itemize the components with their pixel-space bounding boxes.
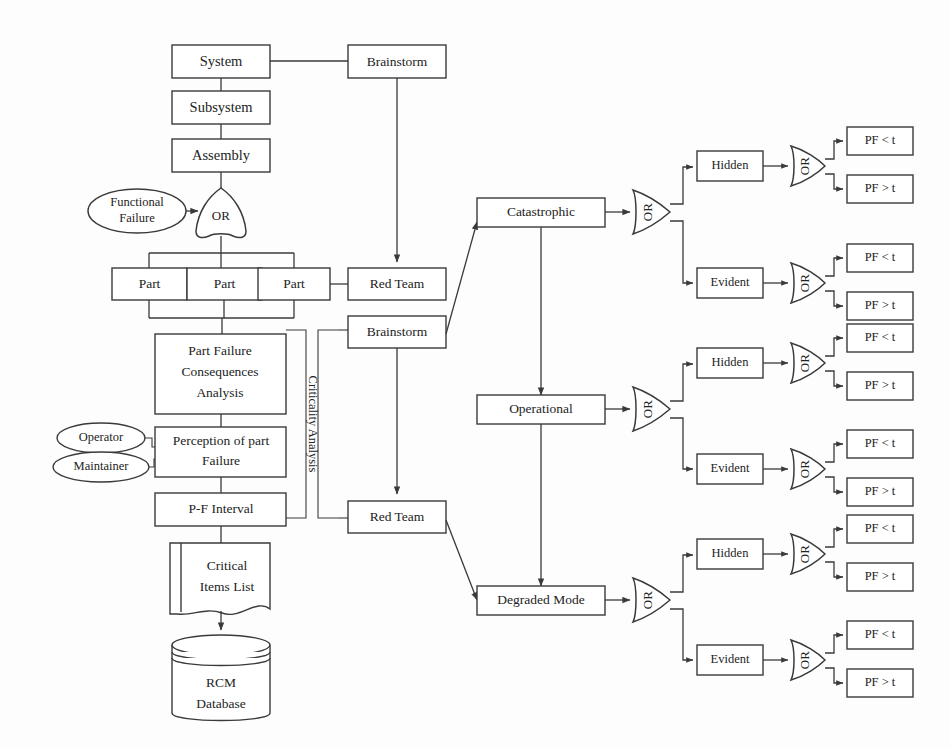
node-degraded-hidden-pf-lt[interactable]: PF < t [847,515,913,543]
node-part-3[interactable]: Part [258,268,330,300]
node-operational-evident[interactable]: Evident [697,454,763,484]
red-team-top-label: Red Team [370,276,425,291]
node-rcm-database[interactable]: RCM Database [172,635,270,721]
node-operator[interactable]: Operator [57,423,145,453]
rcm-flow-diagram: System Subsystem Assembly Functional Fai… [0,0,950,748]
node-operational[interactable]: Operational [477,395,605,424]
node-brainstorm-mid[interactable]: Brainstorm [348,316,446,348]
node-catastrophic-evident[interactable]: Evident [697,268,763,298]
operational-evident-pf-lt-label: PF < t [865,436,896,450]
or-gate-degraded[interactable]: OR [633,578,670,622]
or-gate-operational-hidden[interactable]: OR [791,343,825,383]
catastrophic-evident-pf-gt-label: PF > t [865,298,896,312]
or-gate-catastrophic[interactable]: OR [633,190,670,234]
node-part-failure-consequences-analysis[interactable]: Part Failure Consequences Analysis [155,334,286,414]
node-system-label: System [200,53,243,69]
connector-redteam-degraded [446,520,477,600]
node-part-2-label: Part [214,276,236,291]
connector-operational-split [670,364,693,469]
connector-degraded-evident-outcomes [825,635,843,683]
node-catastrophic-evident-pf-lt[interactable]: PF < t [847,244,913,272]
node-critical-items-list[interactable]: Critical Items List [170,543,270,614]
operational-hidden-pf-gt-label: PF > t [865,378,896,392]
functional-failure-label-line2: Failure [119,211,155,225]
node-degraded-mode[interactable]: Degraded Mode [477,586,605,615]
node-degraded-hidden-pf-gt[interactable]: PF > t [847,563,913,591]
or-gate-operational-evident[interactable]: OR [791,449,825,489]
node-degraded-evident-pf-lt[interactable]: PF < t [847,621,913,649]
node-functional-failure[interactable]: Functional Failure [88,189,186,233]
node-operational-evident-pf-lt[interactable]: PF < t [847,430,913,458]
catastrophic-hidden-pf-lt-label: PF < t [865,133,896,147]
or-gate-catastrophic-label: OR [640,203,655,222]
pfca-label-line2: Consequences [181,364,258,379]
degraded-hidden-pf-gt-label: PF > t [865,569,896,583]
node-maintainer[interactable]: Maintainer [53,452,149,482]
node-degraded-evident-pf-gt[interactable]: PF > t [847,669,913,697]
node-operational-hidden-pf-lt[interactable]: PF < t [847,324,913,352]
connector-brainstorm-catastrophic [446,222,477,334]
rcm-database-label-line1: RCM [206,675,236,690]
or-gate-operational-evident-label: OR [797,460,812,479]
or-gate-operational[interactable]: OR [633,387,670,431]
functional-failure-label-line1: Functional [110,195,164,209]
node-operator-label: Operator [79,430,124,444]
brainstorm-mid-label: Brainstorm [367,324,428,339]
or-gate-degraded-label: OR [640,591,655,610]
or-gate-functional[interactable]: OR [196,188,246,238]
node-subsystem[interactable]: Subsystem [172,91,270,124]
or-gate-degraded-evident-label: OR [797,651,812,670]
connector-catastrophic-hidden-outcomes [825,141,843,189]
or-gate-catastrophic-evident[interactable]: OR [791,263,825,303]
node-catastrophic-hidden-pf-lt[interactable]: PF < t [847,127,913,155]
degraded-evident-label: Evident [711,652,750,666]
node-part-2[interactable]: Part [187,268,262,300]
node-pf-interval[interactable]: P-F Interval [155,493,286,526]
operational-hidden-pf-lt-label: PF < t [865,330,896,344]
degraded-evident-pf-gt-label: PF > t [865,675,896,689]
node-catastrophic-hidden[interactable]: Hidden [697,151,763,181]
connector-operator-perception [145,438,155,447]
connector-degraded-split [670,555,693,660]
node-catastrophic-evident-pf-gt[interactable]: PF > t [847,292,913,320]
or-gate-operational-hidden-label: OR [797,354,812,373]
connector-catastrophic-split [670,167,693,283]
pfca-label-line3: Analysis [196,385,243,400]
cil-label-line1: Critical [207,558,248,573]
node-catastrophic[interactable]: Catastrophic [477,198,605,227]
catastrophic-evident-pf-lt-label: PF < t [865,250,896,264]
hierarchy-group: System Subsystem Assembly [172,45,270,190]
operational-evident-pf-gt-label: PF > t [865,484,896,498]
node-red-team-bottom[interactable]: Red Team [348,501,446,533]
or-gate-degraded-hidden-label: OR [797,545,812,564]
degraded-mode-label: Degraded Mode [497,592,584,607]
parts-group: Part Part Part [112,268,330,300]
node-degraded-evident[interactable]: Evident [697,645,763,675]
connector-operational-evident-outcomes [825,444,843,492]
node-operational-hidden[interactable]: Hidden [697,348,763,378]
catastrophic-label: Catastrophic [507,204,575,219]
pf-interval-label: P-F Interval [189,501,254,516]
degraded-evident-pf-lt-label: PF < t [865,627,896,641]
operational-evident-label: Evident [711,461,750,475]
degraded-hidden-label: Hidden [712,546,750,560]
connector-catastrophic-evident-outcomes [825,258,843,306]
node-brainstorm-top[interactable]: Brainstorm [348,45,446,78]
or-gate-catastrophic-hidden-label: OR [797,157,812,176]
node-assembly-label: Assembly [192,147,251,163]
node-catastrophic-hidden-pf-gt[interactable]: PF > t [847,175,913,203]
node-red-team-top[interactable]: Red Team [348,268,446,300]
brainstorm-top-label: Brainstorm [367,54,428,69]
rcm-database-label-line2: Database [196,696,245,711]
node-degraded-hidden[interactable]: Hidden [697,539,763,569]
node-assembly[interactable]: Assembly [172,139,270,172]
node-maintainer-label: Maintainer [74,459,130,473]
or-gate-catastrophic-hidden[interactable]: OR [791,146,825,186]
node-perception-of-part-failure[interactable]: Perception of part Failure [155,427,286,477]
node-operational-hidden-pf-gt[interactable]: PF > t [847,372,913,400]
node-operational-evident-pf-gt[interactable]: PF > t [847,478,913,506]
or-gate-degraded-evident[interactable]: OR [791,640,825,680]
or-gate-degraded-hidden[interactable]: OR [791,534,825,574]
node-system[interactable]: System [172,45,270,78]
node-part-1[interactable]: Part [112,268,187,300]
